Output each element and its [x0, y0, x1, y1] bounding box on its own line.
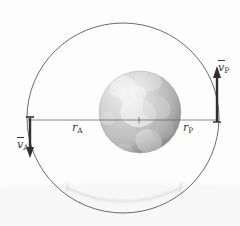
- orbit-diagram: [0, 0, 240, 226]
- label-v-perigee: vP: [218, 62, 229, 74]
- background-wash: [0, 182, 240, 226]
- velocity-perigee-arrow: [213, 66, 221, 122]
- label-r-apogee: rA: [72, 122, 83, 134]
- figure-canvas: rA rP vA vP: [0, 0, 240, 226]
- earth-globe: [98, 69, 181, 162]
- label-v-apogee-symbol: v: [17, 139, 23, 150]
- label-v-apogee: vA: [17, 139, 29, 151]
- label-v-apogee-subscript: A: [23, 143, 28, 152]
- label-r-apogee-subscript: A: [77, 126, 82, 135]
- label-r-perigee: rP: [183, 122, 193, 134]
- label-v-perigee-symbol: v: [218, 62, 224, 73]
- label-r-perigee-subscript: P: [188, 126, 193, 135]
- label-v-perigee-subscript: P: [224, 66, 229, 75]
